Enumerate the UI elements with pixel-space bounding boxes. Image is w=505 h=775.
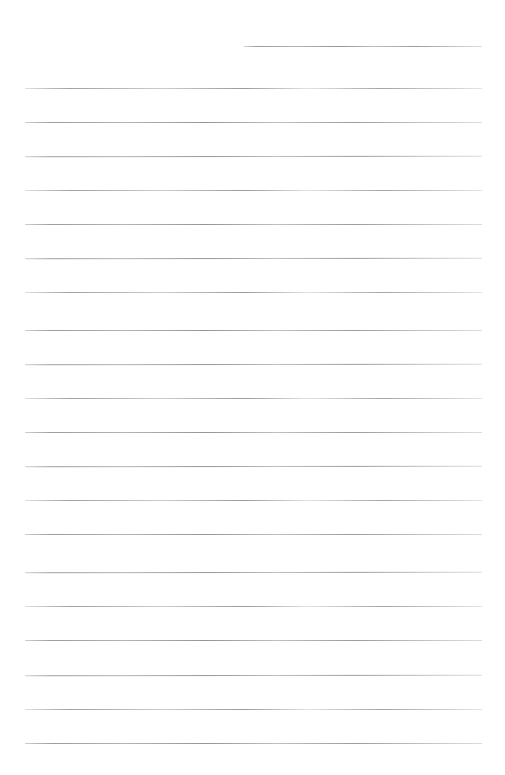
rule-8 [25, 292, 482, 293]
rule-7 [25, 258, 482, 259]
rule-18 [25, 640, 482, 641]
rule-6 [25, 224, 482, 225]
rule-5 [25, 190, 482, 191]
rule-3 [25, 122, 482, 123]
rule-2 [25, 88, 482, 89]
rule-10 [25, 364, 482, 365]
rule-9 [25, 330, 482, 331]
rule-1-short-header [244, 46, 482, 47]
rule-12 [25, 432, 482, 433]
rule-17 [25, 606, 482, 607]
rule-19 [25, 675, 482, 676]
rule-11 [25, 398, 482, 399]
rule-16 [25, 572, 482, 573]
rule-14 [25, 500, 482, 501]
document-page [0, 0, 505, 775]
rule-13 [25, 466, 482, 467]
rule-15 [25, 534, 482, 535]
rule-20 [25, 709, 482, 710]
rule-21 [25, 743, 482, 744]
rule-4 [25, 156, 482, 157]
